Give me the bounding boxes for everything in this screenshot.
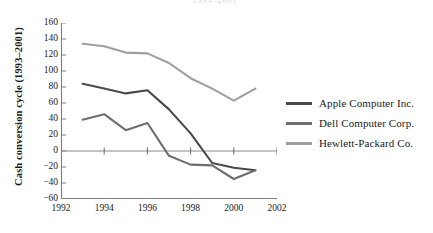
y-tick-label: 80 [28,82,58,92]
y-tick-label: 160 [28,18,58,28]
x-tick-label: 1994 [84,203,124,213]
y-tick-label: 20 [28,130,58,140]
series-line-0 [83,84,256,170]
y-tick-label: 100 [28,66,58,76]
chart-figure: 1993–2001 Cash conversion cycle (1993–20… [0,0,433,233]
y-tick-label: 40 [28,114,58,124]
plot-area [61,23,277,199]
y-tick-label: 60 [28,98,58,108]
y-tick-label: 120 [28,50,58,60]
truncated-title-text: 1993–2001 [155,0,275,4]
y-tick-label: 0 [28,146,58,156]
legend-item: Apple Computer Inc. [286,93,432,113]
x-tick-label: 2000 [214,203,254,213]
legend-label: Dell Computer Corp. [319,117,414,129]
y-tick-label: −20 [28,162,58,172]
legend-label: Hewlett-Packard Co. [319,137,413,149]
legend-swatch-line-icon [286,122,312,125]
legend-item: Dell Computer Corp. [286,113,432,133]
chart-legend: Apple Computer Inc.Dell Computer Corp.He… [286,93,432,153]
y-tick-label: 140 [28,34,58,44]
series-line-2 [83,44,256,101]
legend-swatch-line-icon [286,102,312,105]
legend-label: Apple Computer Inc. [319,97,414,109]
series-line-1 [83,114,256,179]
x-axis-tick-labels: 199219941996199820002002 [61,203,277,217]
x-tick-label: 1992 [41,203,81,213]
x-tick-label: 1998 [171,203,211,213]
y-tick-label: −40 [28,178,58,188]
y-axis-tick-labels: 160140120100806040200−20−40−60 [22,23,58,199]
legend-item: Hewlett-Packard Co. [286,133,432,153]
legend-swatch-line-icon [286,142,312,145]
chart-canvas [61,23,277,199]
x-tick-label: 1996 [127,203,167,213]
x-tick-label: 2002 [257,203,297,213]
